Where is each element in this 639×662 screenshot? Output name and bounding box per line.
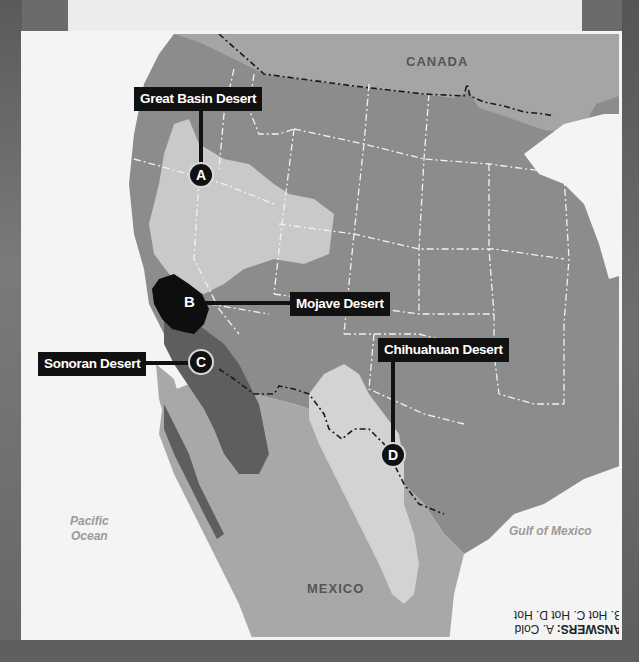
background-bottom	[0, 640, 639, 662]
desert-map: CANADA MEXICO Pacific Ocean Gulf of Mexi…	[21, 31, 622, 640]
marker-b: B	[184, 293, 195, 311]
leader-line-c	[146, 361, 194, 365]
answers-line1-rest: A. Cold	[515, 622, 557, 636]
label-sonoran-desert: Sonoran Desert	[38, 352, 146, 376]
label-great-basin-desert: Great Basin Desert	[134, 87, 262, 111]
label-canada: CANADA	[406, 54, 468, 69]
label-gulf-of-mexico: Gulf of Mexico	[509, 524, 592, 539]
marker-a: A	[190, 164, 212, 186]
pacific-line1: Pacific	[70, 514, 109, 529]
map-graphic	[24, 34, 622, 640]
answers-upside-down: ANSWERS: A. Cold B. Hot C. Hot D. Hot	[514, 608, 622, 636]
leader-line-b	[204, 301, 294, 305]
leader-line-a	[199, 111, 203, 169]
answers-line-2: B. Hot C. Hot D. Hot	[514, 608, 622, 622]
background-right	[622, 0, 639, 662]
leader-line-d	[391, 362, 395, 447]
label-mojave-desert: Mojave Desert	[290, 292, 390, 316]
answers-heading: ANSWERS:	[557, 622, 622, 636]
marker-c: C	[190, 351, 212, 373]
top-card	[68, 0, 582, 32]
label-mexico: MEXICO	[307, 581, 364, 596]
answers-line-1: ANSWERS: A. Cold	[514, 622, 622, 636]
background-left	[0, 0, 22, 662]
pacific-line2: Ocean	[70, 529, 109, 544]
marker-d: D	[382, 444, 404, 466]
label-chihuahuan-desert: Chihuahuan Desert	[378, 338, 509, 362]
label-pacific-ocean: Pacific Ocean	[70, 514, 109, 544]
